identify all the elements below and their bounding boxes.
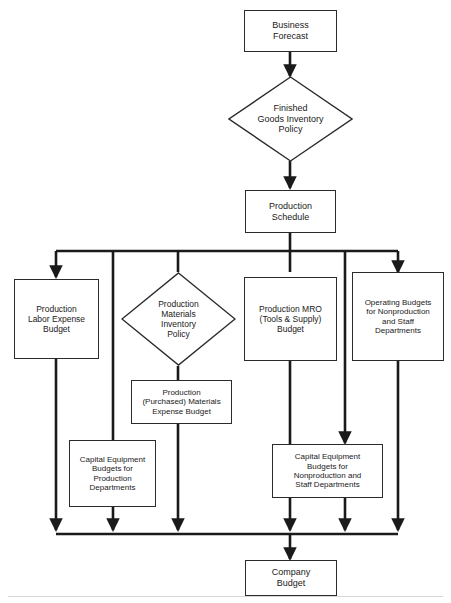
- node-label: Capital Equipment Budgets for Production…: [70, 455, 155, 493]
- node-label: Company Budget: [246, 567, 336, 588]
- node-label: Production MRO (Tools & Supply) Budget: [245, 304, 336, 334]
- node-company-budget[interactable]: Company Budget: [245, 560, 337, 596]
- node-label: Capital Equipment Budgets for Nonproduct…: [273, 452, 382, 490]
- node-materials-expense-budget[interactable]: Production (Purchased) Materials Expense…: [131, 380, 232, 424]
- node-production-mro-budget[interactable]: Production MRO (Tools & Supply) Budget: [244, 277, 337, 361]
- flowchart-canvas: Business Forecast Finished Goods Invento…: [0, 0, 451, 603]
- node-operating-budgets-nonproduction[interactable]: Operating Budgets for Nonproduction and …: [352, 272, 444, 361]
- node-production-schedule[interactable]: Production Schedule: [245, 190, 336, 233]
- node-label: Production Schedule: [246, 201, 335, 222]
- node-capital-equipment-production[interactable]: Capital Equipment Budgets for Production…: [69, 440, 156, 507]
- node-production-labor-budget[interactable]: Production Labor Expense Budget: [14, 279, 99, 359]
- node-finished-goods-policy[interactable]: Finished Goods Inventory Policy: [228, 76, 353, 162]
- node-business-forecast[interactable]: Business Forecast: [244, 10, 337, 52]
- node-label: Operating Budgets for Nonproduction and …: [353, 298, 443, 336]
- node-label: Production Materials Inventory Policy: [121, 299, 236, 339]
- page-rule: [8, 596, 443, 597]
- node-label: Production Labor Expense Budget: [15, 304, 98, 334]
- node-label: Production (Purchased) Materials Expense…: [132, 388, 231, 416]
- node-capital-equipment-nonproduction[interactable]: Capital Equipment Budgets for Nonproduct…: [272, 444, 383, 498]
- node-materials-inventory-policy[interactable]: Production Materials Inventory Policy: [121, 272, 236, 366]
- node-label: Business Forecast: [245, 20, 336, 41]
- node-label: Finished Goods Inventory Policy: [228, 103, 353, 135]
